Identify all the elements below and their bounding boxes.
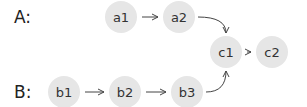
node-label: a2 bbox=[171, 10, 187, 25]
node-c2: c2 bbox=[256, 36, 288, 68]
edge-a2-c1 bbox=[198, 17, 226, 33]
node-a2: a2 bbox=[163, 1, 195, 33]
node-b1: b1 bbox=[48, 76, 80, 107]
node-label: b3 bbox=[179, 85, 196, 100]
node-a1: a1 bbox=[105, 1, 137, 33]
list-a-label: A: bbox=[14, 7, 31, 27]
node-b3: b3 bbox=[171, 76, 203, 107]
node-b2: b2 bbox=[109, 76, 141, 107]
node-label: c1 bbox=[218, 45, 233, 60]
linked-list-diagram: A: B: a1a2b1b2b3c1c2 bbox=[0, 0, 307, 107]
node-c1: c1 bbox=[210, 36, 242, 68]
node-label: b1 bbox=[56, 85, 73, 100]
node-label: b2 bbox=[117, 85, 134, 100]
node-label: c2 bbox=[264, 45, 279, 60]
list-b-label: B: bbox=[14, 82, 31, 102]
node-label: a1 bbox=[113, 10, 129, 25]
edge-b3-c1 bbox=[206, 71, 226, 92]
